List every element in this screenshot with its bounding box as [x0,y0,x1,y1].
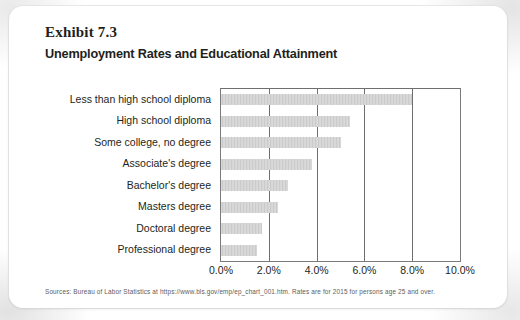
bar [221,180,288,191]
value-tick-label: 8.0% [400,264,424,276]
category-label: High school diploma [116,114,211,126]
gridline [364,89,365,261]
category-label: Associate's degree [123,157,211,169]
category-label: Bachelor's degree [127,179,211,191]
category-axis-labels: Less than high school diplomaHigh school… [45,84,217,262]
bar [221,159,312,170]
value-tick-label: 10.0% [445,264,475,276]
source-note: Sources: Bureau of Labor Statistics at h… [45,287,495,296]
chart-title: Unemployment Rates and Educational Attai… [45,46,337,61]
bar [221,94,412,105]
category-label: Less than high school diploma [70,93,211,105]
category-label: Doctoral degree [136,222,211,234]
value-tick-label: 2.0% [257,264,281,276]
bar [221,116,350,127]
exhibit-card: Exhibit 7.3 Unemployment Rates and Educa… [9,6,507,308]
exhibit-label: Exhibit 7.3 [45,24,117,41]
value-axis-labels: 0.0%2.0%4.0%6.0%8.0%10.0% [220,264,461,280]
bar [221,223,262,234]
value-tick-label: 0.0% [209,264,233,276]
bar [221,137,341,148]
category-label: Some college, no degree [94,136,211,148]
bar [221,202,278,213]
plot-area [220,88,461,262]
bar-chart: Less than high school diplomaHigh school… [45,84,465,280]
bar [221,245,257,256]
category-label: Masters degree [138,200,211,212]
category-label: Professional degree [118,243,211,255]
value-tick-label: 6.0% [352,264,376,276]
value-tick-label: 4.0% [305,264,329,276]
gridline [412,89,413,261]
exhibit-page: Exhibit 7.3 Unemployment Rates and Educa… [0,0,520,320]
